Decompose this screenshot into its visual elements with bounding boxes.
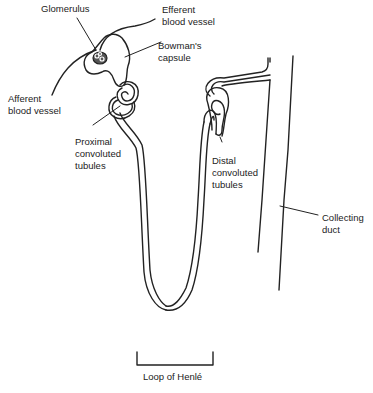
- label-glomerulus: Glomerulus: [41, 3, 90, 15]
- label-efferent-blood-vessel: Efferent blood vessel: [162, 4, 215, 28]
- glomerulus: [93, 52, 107, 64]
- label-collecting-duct: Collecting duct: [322, 212, 364, 236]
- distal-convoluted-tubule: [204, 58, 270, 136]
- collecting-duct: [258, 56, 293, 290]
- label-distal-convoluted-tubules: Distal convoluted tubules: [212, 155, 258, 191]
- label-bowmans-capsule: Bowman's capsule: [158, 40, 202, 64]
- loop-of-henle: [166, 122, 210, 310]
- label-afferent-blood-vessel: Afferent blood vessel: [8, 93, 61, 117]
- nephron-diagram: Glomerulus Efferent blood vessel Bowman'…: [0, 0, 373, 393]
- loop-bracket: [137, 352, 213, 365]
- label-loop-of-henle: Loop of Henlé: [143, 371, 202, 383]
- label-proximal-convoluted-tubules: Proximal convoluted tubules: [75, 136, 121, 172]
- proximal-convoluted-tubule: [109, 82, 166, 310]
